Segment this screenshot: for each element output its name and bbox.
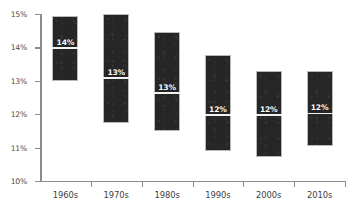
y-axis-tick-label: 15% <box>0 10 27 19</box>
median-line <box>256 114 282 116</box>
median-value-label: 14% <box>47 38 83 47</box>
y-axis-tick <box>35 47 40 48</box>
x-axis-tick <box>243 181 244 187</box>
range-bar[interactable] <box>154 32 180 131</box>
x-axis-category-label: 1990s <box>193 190 244 200</box>
y-axis-tick <box>35 148 40 149</box>
range-bar[interactable] <box>205 55 231 151</box>
chart-container: 15% 14% 13% 12% 11% 10% 1960s 1970s 1980… <box>0 0 353 211</box>
y-axis-line <box>40 14 42 182</box>
x-axis-tick <box>193 181 194 187</box>
x-axis-category-label: 1970s <box>91 190 142 200</box>
median-value-label: 13% <box>149 83 185 92</box>
x-axis-category-label: 2000s <box>243 190 294 200</box>
median-line <box>307 113 333 115</box>
median-value-label: 12% <box>251 105 287 114</box>
y-axis-tick <box>35 181 40 182</box>
y-axis-tick <box>35 81 40 82</box>
y-axis-tick <box>35 14 40 15</box>
median-value-label: 13% <box>98 68 134 77</box>
median-value-label: 12% <box>200 105 236 114</box>
x-axis-category-label: 2010s <box>294 190 345 200</box>
y-axis-tick-label: 11% <box>0 144 27 153</box>
x-axis-tick <box>294 181 295 187</box>
median-line <box>154 92 180 94</box>
y-axis-tick-label: 12% <box>0 110 27 119</box>
median-line <box>103 77 129 79</box>
y-axis-tick-label: 14% <box>0 43 27 52</box>
median-line <box>205 114 231 116</box>
x-axis-category-label: 1960s <box>40 190 91 200</box>
median-value-label: 12% <box>302 103 338 112</box>
y-axis-tick-label: 10% <box>0 177 27 186</box>
y-axis-tick <box>35 114 40 115</box>
median-line <box>52 47 78 49</box>
x-axis-tick <box>345 181 346 187</box>
x-axis-tick <box>142 181 143 187</box>
x-axis-category-label: 1980s <box>142 190 193 200</box>
x-axis-tick <box>91 181 92 187</box>
plot-area: 15% 14% 13% 12% 11% 10% 1960s 1970s 1980… <box>40 14 345 182</box>
y-axis-tick-label: 13% <box>0 77 27 86</box>
